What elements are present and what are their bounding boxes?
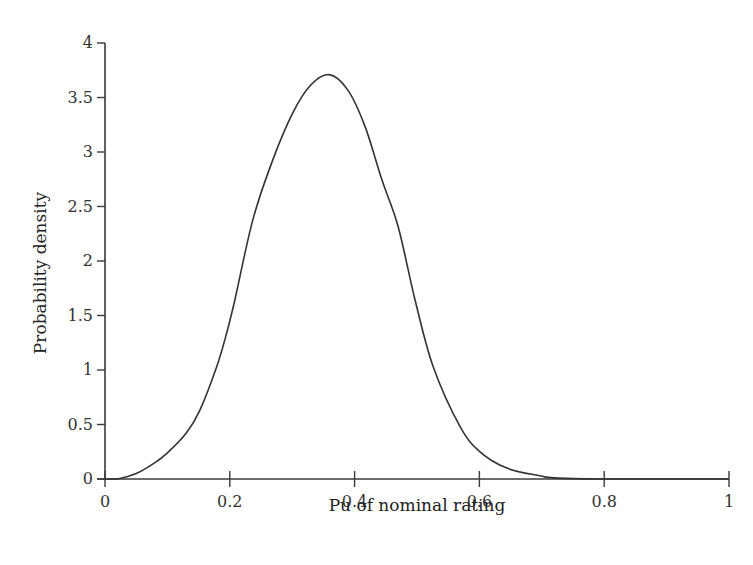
y-tick-label: 2	[83, 251, 93, 270]
y-tick-label: 4	[83, 33, 93, 52]
y-tick-label: 0.5	[68, 415, 93, 434]
y-axis: 00.511.522.533.54	[68, 33, 105, 488]
y-tick-label: 0	[83, 469, 93, 488]
x-axis-title: Pu of nominal rating	[329, 495, 506, 515]
y-tick-label: 3.5	[68, 88, 93, 107]
y-tick-label: 3	[83, 142, 93, 161]
y-tick-label: 1.5	[68, 306, 93, 325]
y-tick-label: 2.5	[68, 197, 93, 216]
y-axis-title: Probability density	[30, 191, 50, 354]
x-tick-label: 1	[724, 492, 734, 511]
y-tick-label: 1	[83, 360, 93, 379]
density-curve	[105, 75, 729, 479]
x-tick-label: 0.2	[217, 492, 242, 511]
chart: 00.511.522.533.54 00.20.40.60.81 Probabi…	[0, 0, 753, 565]
x-tick-label: 0	[100, 492, 110, 511]
x-tick-label: 0.8	[591, 492, 616, 511]
